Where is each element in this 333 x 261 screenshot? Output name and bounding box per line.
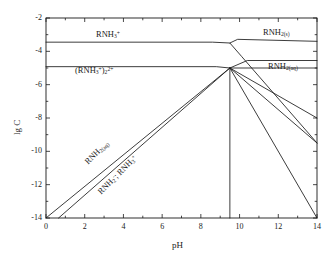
- curve-rnh3-plateau: [46, 42, 317, 143]
- plot-frame: [46, 18, 317, 218]
- curve-descending-fan-line-upper: [230, 68, 317, 118]
- x-tick-label-2: 2: [80, 222, 90, 231]
- y-tick-label-10: -10: [22, 146, 42, 155]
- curve-rnh2-aq-rising-diagonal: [46, 68, 230, 218]
- curve-rnh2-rnh3-rising-diagonal: [59, 68, 230, 218]
- x-tick-label-4: 4: [118, 222, 128, 231]
- x-tick-label-6: 6: [157, 222, 167, 231]
- curve-descending-fan-line-middle: [230, 68, 317, 143]
- x-tick-label-14: 14: [312, 222, 322, 231]
- y-tick-label-12: -12: [22, 180, 42, 189]
- curve-rnh2-s-branch: [230, 39, 317, 43]
- figure-container: 02468101214-2-4-6-8-10-12-14 RNH3+(RNH3+…: [0, 0, 333, 261]
- y-tick-label-4: -4: [22, 46, 42, 55]
- rnh3-dimer-label: (RNH3+)22+: [75, 66, 113, 76]
- y-tick-label-14: -14: [22, 213, 42, 222]
- rnh2-aqueous-label: RNH2(aq): [268, 62, 298, 72]
- x-tick-label-10: 10: [235, 222, 245, 231]
- y-tick-label-8: -8: [22, 113, 42, 122]
- rnh2-solid-label: RNH2(s): [263, 28, 290, 38]
- y-tick-label-6: -6: [22, 80, 42, 89]
- x-tick-label-12: 12: [273, 222, 283, 231]
- y-tick-label-2: -2: [22, 13, 42, 22]
- x-tick-label-8: 8: [196, 222, 206, 231]
- x-axis-title: pH: [172, 240, 183, 250]
- axis-ticks: [46, 18, 317, 218]
- y-axis-title: lg C: [12, 120, 22, 135]
- rnh3-plus-label: RNH3+: [96, 30, 120, 40]
- x-tick-label-0: 0: [41, 222, 51, 231]
- curve-descending-fan-line-lower: [230, 68, 317, 218]
